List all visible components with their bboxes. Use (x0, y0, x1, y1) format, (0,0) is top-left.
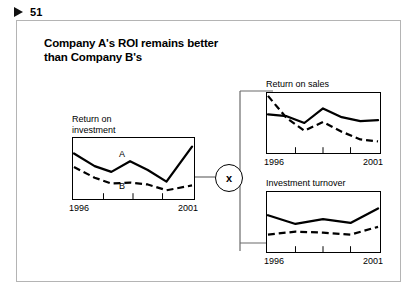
plot-lines-sales (267, 93, 380, 153)
triangle-right-icon (14, 7, 23, 17)
plot-lines-roi (73, 138, 194, 199)
axis-end-turnover: 2001 (363, 256, 383, 267)
axis-labels-roi: 1996 2001 (69, 203, 198, 214)
plot-area-sales (266, 92, 381, 154)
chart-caption-turnover: Investment turnover (266, 178, 383, 189)
multiply-symbol: x (226, 173, 232, 184)
axis-start-sales: 1996 (264, 157, 284, 168)
multiply-operator-node: x (215, 164, 243, 192)
series-label-b: B (119, 182, 125, 191)
page-title: Company A's ROI remains better than Comp… (44, 36, 218, 64)
exhibit-number: 51 (30, 7, 43, 18)
chart-return-on-sales: Return on sales 1996 2001 (266, 79, 383, 168)
plot-area-turnover (266, 191, 381, 253)
axis-labels-sales: 1996 2001 (264, 157, 383, 168)
exhibit-header: 51 (14, 3, 43, 21)
series-label-a: A (119, 150, 125, 159)
chart-caption-roi: Return on investment (72, 114, 198, 135)
axis-start-roi: 1996 (69, 203, 89, 214)
axis-labels-turnover: 1996 2001 (264, 256, 383, 267)
axis-end-roi: 2001 (178, 203, 198, 214)
exhibit-frame: Company A's ROI remains better than Comp… (16, 20, 401, 282)
chart-caption-sales: Return on sales (266, 79, 383, 90)
plot-lines-turnover (267, 192, 380, 252)
plot-area-roi: A B (72, 137, 195, 200)
chart-return-on-investment: Return on investment A B 1996 2001 (72, 114, 198, 214)
axis-end-sales: 2001 (363, 157, 383, 168)
axis-start-turnover: 1996 (264, 256, 284, 267)
chart-investment-turnover: Investment turnover 1996 2001 (266, 178, 383, 267)
